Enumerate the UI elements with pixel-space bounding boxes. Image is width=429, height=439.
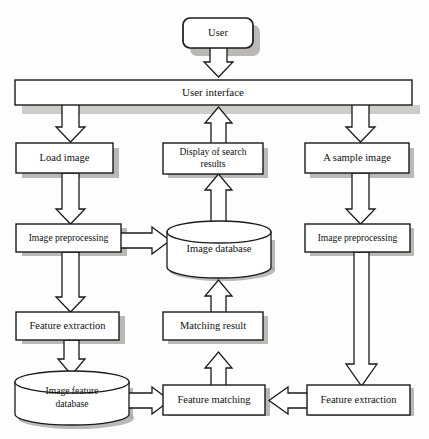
node-sample-image[interactable]: A sample image [305,143,409,173]
arrow-feature-matching-to-matching-result [205,352,232,388]
node-feature-db-label-2: database [55,398,88,409]
node-feature-matching[interactable]: Feature matching [163,385,265,415]
arrow-matching-result-to-image-database [205,280,232,315]
node-feature-db[interactable]: Image feature database [15,371,129,425]
arrow-preprocess-right-to-feature-extract-right [346,252,377,386]
node-user-label: User [208,27,228,38]
node-preprocess-right[interactable]: Image preprocessing [305,224,410,252]
node-image-database-label: Image database [186,243,251,254]
arrow-load-image-to-preprocess-left [56,173,85,224]
flowchart-canvas: User User interface Load image Display o… [0,0,429,439]
node-display-results-label-2: results [200,158,225,169]
node-feature-matching-label: Feature matching [177,394,251,405]
node-feature-db-label: Image feature [46,385,99,396]
node-matching-result[interactable]: Matching result [163,312,263,340]
arrow-preprocess-left-to-image-database [120,227,170,254]
arrow-feature-extract-left-to-feature-db [58,340,85,375]
node-user-interface-label: User interface [182,86,244,98]
node-user-interface[interactable]: User interface [15,80,412,105]
node-load-image-label: Load image [40,152,90,163]
node-preprocess-right-label: Image preprocessing [318,232,398,243]
node-display-results-label: Display of search [179,146,246,157]
node-user[interactable]: User [183,18,253,48]
arrow-sample-image-to-preprocess-right [346,173,375,224]
node-image-database[interactable]: Image database [167,221,271,278]
node-load-image[interactable]: Load image [16,143,113,173]
node-feature-extract-left[interactable]: Feature extraction [16,312,119,340]
node-feature-extract-right[interactable]: Feature extraction [307,385,410,415]
arrow-feature-extract-right-to-feature-matching [269,387,312,414]
node-image-database-top [167,221,271,243]
node-sample-image-label: A sample image [323,152,391,163]
arrow-preprocess-left-to-feature-extract-left [56,252,85,312]
node-feature-extract-left-label: Feature extraction [29,320,106,331]
node-preprocess-left[interactable]: Image preprocessing [16,224,121,252]
flowchart-diagram: User User interface Load image Display o… [0,0,429,439]
node-display-results[interactable]: Display of search results [163,143,263,174]
node-feature-extract-right-label: Feature extraction [320,394,397,405]
node-matching-result-label: Matching result [180,320,246,331]
node-preprocess-left-label: Image preprocessing [29,232,109,243]
